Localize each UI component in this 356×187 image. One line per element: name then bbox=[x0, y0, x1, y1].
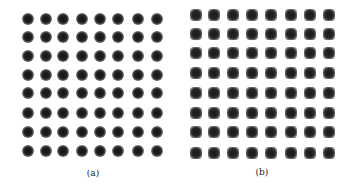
dot bbox=[265, 47, 277, 59]
dot bbox=[227, 107, 239, 119]
dot bbox=[40, 13, 52, 25]
dot bbox=[151, 87, 163, 99]
caption-b: (b) bbox=[256, 167, 269, 177]
dot bbox=[208, 47, 220, 59]
dot bbox=[323, 87, 335, 99]
dot bbox=[246, 9, 258, 21]
dot bbox=[190, 107, 202, 119]
dot bbox=[22, 13, 34, 25]
dot bbox=[304, 107, 316, 119]
dot bbox=[190, 87, 202, 99]
dot bbox=[57, 87, 69, 99]
dot bbox=[323, 9, 335, 21]
dot bbox=[112, 107, 124, 119]
dot bbox=[112, 69, 124, 81]
dot bbox=[246, 67, 258, 79]
dot bbox=[227, 9, 239, 21]
dot bbox=[265, 67, 277, 79]
dot bbox=[323, 47, 335, 59]
dot bbox=[246, 126, 258, 138]
dot bbox=[112, 50, 124, 62]
dot bbox=[40, 145, 52, 157]
dot bbox=[22, 69, 34, 81]
dot bbox=[76, 50, 88, 62]
dot bbox=[151, 107, 163, 119]
dot bbox=[94, 145, 106, 157]
dot bbox=[40, 50, 52, 62]
dot bbox=[190, 9, 202, 21]
dot bbox=[227, 28, 239, 40]
dot bbox=[132, 87, 144, 99]
dot bbox=[112, 31, 124, 43]
dot bbox=[57, 126, 69, 138]
dot bbox=[190, 47, 202, 59]
dot bbox=[151, 69, 163, 81]
dot bbox=[112, 145, 124, 157]
dot bbox=[190, 67, 202, 79]
dot bbox=[246, 28, 258, 40]
dot bbox=[76, 107, 88, 119]
dot bbox=[132, 50, 144, 62]
dot bbox=[40, 87, 52, 99]
dot bbox=[40, 126, 52, 138]
dot bbox=[76, 145, 88, 157]
dot bbox=[132, 107, 144, 119]
dot bbox=[132, 31, 144, 43]
dot bbox=[76, 126, 88, 138]
dot bbox=[265, 107, 277, 119]
dot bbox=[265, 147, 277, 159]
dot bbox=[285, 147, 297, 159]
dot bbox=[265, 87, 277, 99]
dot bbox=[57, 13, 69, 25]
dot bbox=[151, 31, 163, 43]
dot bbox=[304, 9, 316, 21]
dot bbox=[323, 147, 335, 159]
dot bbox=[285, 87, 297, 99]
dot bbox=[22, 87, 34, 99]
dot bbox=[227, 47, 239, 59]
dot bbox=[190, 147, 202, 159]
dot bbox=[208, 126, 220, 138]
dot bbox=[57, 145, 69, 157]
dot bbox=[22, 126, 34, 138]
dot bbox=[76, 31, 88, 43]
dot bbox=[57, 50, 69, 62]
dot bbox=[304, 126, 316, 138]
caption-a: (a) bbox=[87, 168, 99, 178]
dot bbox=[265, 28, 277, 40]
dot bbox=[76, 69, 88, 81]
dot bbox=[76, 87, 88, 99]
dot bbox=[304, 67, 316, 79]
dot bbox=[285, 47, 297, 59]
dot bbox=[246, 107, 258, 119]
dot bbox=[132, 13, 144, 25]
dot bbox=[22, 50, 34, 62]
dot bbox=[323, 67, 335, 79]
dot bbox=[132, 126, 144, 138]
dot bbox=[22, 31, 34, 43]
dot bbox=[265, 9, 277, 21]
dot bbox=[208, 147, 220, 159]
dot bbox=[285, 107, 297, 119]
dot bbox=[132, 69, 144, 81]
dot bbox=[40, 31, 52, 43]
dot bbox=[246, 47, 258, 59]
dot bbox=[151, 13, 163, 25]
dot bbox=[57, 107, 69, 119]
dot bbox=[57, 31, 69, 43]
dot bbox=[112, 87, 124, 99]
dot bbox=[22, 107, 34, 119]
dot bbox=[94, 13, 106, 25]
dot bbox=[285, 28, 297, 40]
dot bbox=[208, 107, 220, 119]
dot bbox=[57, 69, 69, 81]
dot bbox=[151, 145, 163, 157]
dot bbox=[285, 126, 297, 138]
dot bbox=[94, 69, 106, 81]
dot bbox=[304, 147, 316, 159]
dot bbox=[151, 50, 163, 62]
dot bbox=[323, 126, 335, 138]
dot bbox=[304, 47, 316, 59]
dot bbox=[132, 145, 144, 157]
dot bbox=[40, 107, 52, 119]
